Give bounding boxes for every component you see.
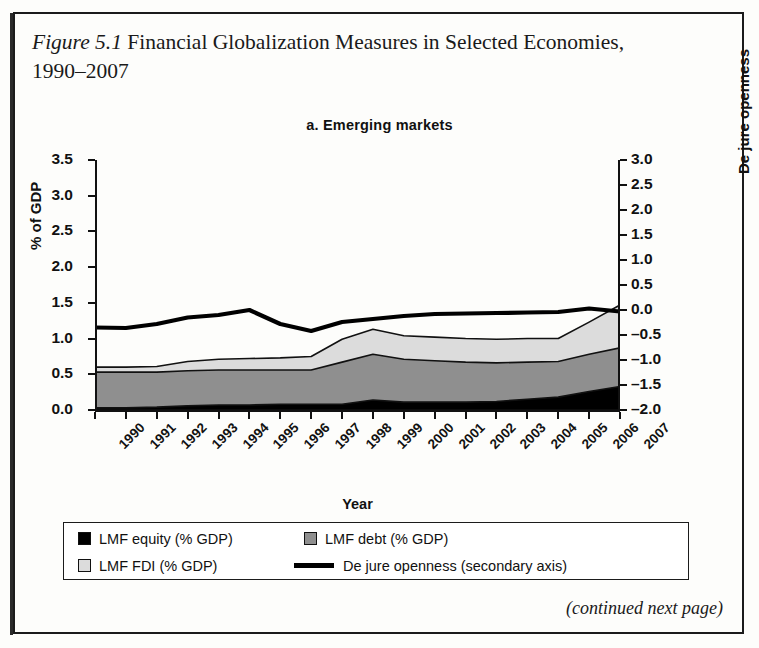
x-tick-mark xyxy=(156,412,158,419)
x-tick-mark xyxy=(434,412,436,419)
right-tick-label: 0.5 xyxy=(631,275,677,293)
x-tick-mark xyxy=(372,412,374,419)
x-tick-mark xyxy=(94,412,96,419)
x-tick-mark xyxy=(279,412,281,419)
right-tick-mark xyxy=(620,159,627,161)
legend-item-lmf-fdi[interactable]: LMF FDI (% GDP) xyxy=(78,551,217,580)
right-tick-mark xyxy=(620,384,627,386)
right-tick-label: 2.0 xyxy=(631,200,677,218)
legend-swatch-lmf-equity xyxy=(78,532,91,545)
right-tick-mark xyxy=(620,334,627,336)
legend-row-2: LMF FDI (% GDP) De jure openness (second… xyxy=(64,551,690,580)
right-axis-title: De jure openness xyxy=(735,49,752,174)
continued-note: (continued next page) xyxy=(0,598,723,619)
left-axis-line xyxy=(95,160,97,412)
x-tick-mark xyxy=(310,412,312,419)
right-axis-line xyxy=(618,160,620,412)
x-tick-mark xyxy=(526,412,528,419)
x-tick-mark xyxy=(341,412,343,419)
left-tick-mark xyxy=(88,373,95,375)
figure-number: Figure 5.1 xyxy=(32,30,122,54)
right-tick-mark xyxy=(620,284,627,286)
x-tick-mark xyxy=(218,412,220,419)
left-tick-label: 1.0 xyxy=(27,329,73,347)
x-tick-mark xyxy=(125,412,127,419)
legend-label-lmf-fdi: LMF FDI (% GDP) xyxy=(99,558,217,574)
right-tick-label: 2.5 xyxy=(631,175,677,193)
legend-label-de-jure-openness: De jure openness (secondary axis) xyxy=(343,558,567,574)
legend-line-de-jure-openness xyxy=(294,563,334,568)
x-axis-line xyxy=(95,410,620,412)
legend-label-lmf-debt: LMF debt (% GDP) xyxy=(325,531,448,547)
legend-item-de-jure-openness[interactable]: De jure openness (secondary axis) xyxy=(294,551,567,580)
legend-swatch-lmf-fdi xyxy=(78,559,91,572)
area-chart-svg xyxy=(95,160,620,412)
right-tick-label: –2.0 xyxy=(631,400,677,418)
chart-plot-area: 0.00.51.01.52.02.53.03.5 –2.0–1.5–1.0–0.… xyxy=(95,160,620,412)
right-tick-label: 1.0 xyxy=(631,250,677,268)
x-tick-mark xyxy=(465,412,467,419)
right-tick-mark xyxy=(620,259,627,261)
x-tick-mark xyxy=(619,412,621,419)
left-tick-mark xyxy=(88,409,95,411)
legend-label-lmf-equity: LMF equity (% GDP) xyxy=(99,531,233,547)
left-tick-mark xyxy=(88,302,95,304)
panel-title: a. Emerging markets xyxy=(0,117,759,133)
left-tick-mark xyxy=(88,266,95,268)
legend-swatch-lmf-debt xyxy=(304,532,317,545)
left-tick-mark xyxy=(88,338,95,340)
x-tick-mark xyxy=(588,412,590,419)
left-tick-label: 2.0 xyxy=(27,257,73,275)
figure-page: Figure 5.1 Financial Globalization Measu… xyxy=(0,0,759,648)
right-tick-label: –1.0 xyxy=(631,350,677,368)
left-tick-mark xyxy=(88,159,95,161)
figure-caption: Figure 5.1 Financial Globalization Measu… xyxy=(32,28,672,86)
x-tick-mark xyxy=(557,412,559,419)
right-tick-mark xyxy=(620,359,627,361)
right-tick-mark xyxy=(620,209,627,211)
left-tick-label: 3.5 xyxy=(27,150,73,168)
left-tick-label: 1.5 xyxy=(27,293,73,311)
x-axis-title: Year xyxy=(95,496,620,512)
right-tick-label: 0.0 xyxy=(631,300,677,318)
left-tick-label: 0.0 xyxy=(27,400,73,418)
left-axis-title: % of GDP xyxy=(27,182,44,250)
x-tick-mark xyxy=(495,412,497,419)
legend-row-1: LMF equity (% GDP) LMF debt (% GDP) xyxy=(64,524,690,553)
legend-item-lmf-equity[interactable]: LMF equity (% GDP) xyxy=(78,524,233,553)
legend-item-lmf-debt[interactable]: LMF debt (% GDP) xyxy=(304,524,448,553)
x-tick-mark xyxy=(403,412,405,419)
x-tick-mark xyxy=(248,412,250,419)
right-tick-mark xyxy=(620,309,627,311)
left-tick-mark xyxy=(88,230,95,232)
chart-legend: LMF equity (% GDP) LMF debt (% GDP) LMF … xyxy=(63,522,689,580)
left-tick-label: 0.5 xyxy=(27,364,73,382)
left-tick-mark xyxy=(88,195,95,197)
right-tick-label: –0.5 xyxy=(631,325,677,343)
right-tick-mark xyxy=(620,184,627,186)
right-tick-mark xyxy=(620,234,627,236)
right-tick-label: –1.5 xyxy=(631,375,677,393)
right-tick-label: 3.0 xyxy=(631,150,677,168)
x-tick-mark xyxy=(187,412,189,419)
right-tick-label: 1.5 xyxy=(631,225,677,243)
right-tick-mark xyxy=(620,409,627,411)
